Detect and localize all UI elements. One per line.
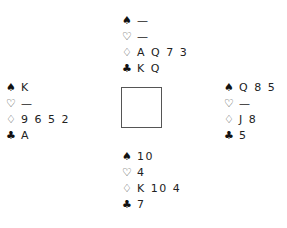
west-diamonds-cards: 9 6 5 2 (21, 112, 70, 128)
south-spades-cards: 10 (137, 149, 154, 165)
diamond-icon: ♢ (122, 45, 137, 61)
heart-icon: ♡ (122, 165, 137, 181)
east-diamonds-cards: J 8 (239, 112, 257, 128)
south-hand: ♠ 10 ♡ 4 ♢ K 10 4 ♣ 7 (122, 149, 181, 213)
north-hearts-row: ♡ — (122, 29, 188, 45)
north-hearts-cards: — (137, 29, 150, 45)
club-icon: ♣ (122, 61, 137, 77)
east-spades-cards: Q 8 5 (239, 80, 276, 96)
spade-icon: ♠ (122, 13, 137, 29)
north-hand: ♠ — ♡ — ♢ A Q 7 3 ♣ K Q (122, 13, 188, 77)
south-hearts-row: ♡ 4 (122, 165, 181, 181)
south-hearts-cards: 4 (137, 165, 146, 181)
east-hearts-cards: — (239, 96, 252, 112)
south-clubs-cards: 7 (137, 197, 146, 213)
club-icon: ♣ (224, 128, 239, 144)
club-icon: ♣ (6, 128, 21, 144)
north-spades-cards: — (137, 13, 150, 29)
spade-icon: ♠ (122, 149, 137, 165)
south-diamonds-row: ♢ K 10 4 (122, 181, 181, 197)
spade-icon: ♠ (224, 80, 239, 96)
heart-icon: ♡ (224, 96, 239, 112)
spade-icon: ♠ (6, 80, 21, 96)
west-diamonds-row: ♢ 9 6 5 2 (6, 112, 70, 128)
north-clubs-cards: K Q (137, 61, 161, 77)
diamond-icon: ♢ (224, 112, 239, 128)
west-hearts-cards: — (21, 96, 34, 112)
west-hand: ♠ K ♡ — ♢ 9 6 5 2 ♣ A (6, 80, 70, 144)
south-clubs-row: ♣ 7 (122, 197, 181, 213)
west-clubs-cards: A (21, 128, 30, 144)
west-clubs-row: ♣ A (6, 128, 70, 144)
east-clubs-cards: 5 (239, 128, 248, 144)
table-square (121, 87, 162, 128)
west-spades-row: ♠ K (6, 80, 70, 96)
east-hearts-row: ♡ — (224, 96, 276, 112)
east-spades-row: ♠ Q 8 5 (224, 80, 276, 96)
diamond-icon: ♢ (122, 181, 137, 197)
heart-icon: ♡ (6, 96, 21, 112)
south-spades-row: ♠ 10 (122, 149, 181, 165)
west-hearts-row: ♡ — (6, 96, 70, 112)
north-diamonds-row: ♢ A Q 7 3 (122, 45, 188, 61)
north-spades-row: ♠ — (122, 13, 188, 29)
diamond-icon: ♢ (6, 112, 21, 128)
west-spades-cards: K (21, 80, 30, 96)
heart-icon: ♡ (122, 29, 137, 45)
club-icon: ♣ (122, 197, 137, 213)
east-diamonds-row: ♢ J 8 (224, 112, 276, 128)
south-diamonds-cards: K 10 4 (137, 181, 181, 197)
north-diamonds-cards: A Q 7 3 (137, 45, 188, 61)
east-clubs-row: ♣ 5 (224, 128, 276, 144)
east-hand: ♠ Q 8 5 ♡ — ♢ J 8 ♣ 5 (224, 80, 276, 144)
north-clubs-row: ♣ K Q (122, 61, 188, 77)
